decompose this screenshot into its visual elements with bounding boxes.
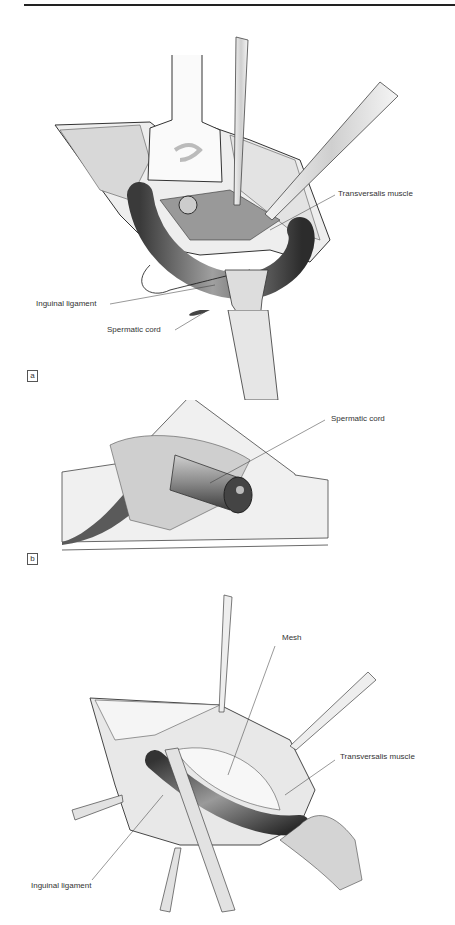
label-inguinal-ligament-c: Inguinal ligament xyxy=(31,881,91,890)
figure-panel-a-lower: Spermatic cord a xyxy=(0,310,455,400)
figure-panel-a: Transversalis muscle Inguinal ligament xyxy=(0,0,455,320)
label-inguinal-ligament-a: Inguinal ligament xyxy=(36,299,96,308)
label-transversalis-muscle-c: Transversalis muscle xyxy=(340,752,415,761)
panel-tag-b: b xyxy=(27,553,38,565)
retractor-handle-a xyxy=(0,310,455,400)
figure-panel-b: Spermatic cord b xyxy=(0,400,455,570)
figure-panel-c: Mesh Transversalis muscle Inguinal ligam… xyxy=(0,580,455,925)
surgical-illustration-b xyxy=(0,400,455,570)
panel-tag-a: a xyxy=(27,370,38,382)
label-mesh: Mesh xyxy=(282,633,302,642)
label-spermatic-cord-a: Spermatic cord xyxy=(107,325,161,334)
surgical-illustration-a xyxy=(0,0,455,320)
label-transversalis-muscle-a: Transversalis muscle xyxy=(338,189,413,198)
label-spermatic-cord-b: Spermatic cord xyxy=(331,414,385,423)
